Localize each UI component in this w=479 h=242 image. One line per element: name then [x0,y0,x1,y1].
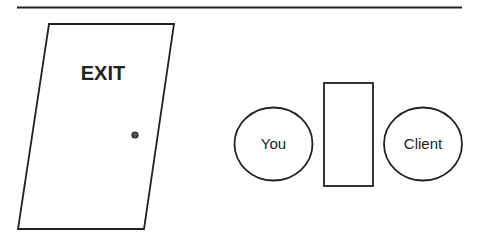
layout-diagram: EXIT You Client [0,0,479,242]
exit-label: EXIT [81,62,125,84]
desk [324,83,373,186]
exit-door [18,24,174,229]
client-label: Client [404,135,443,152]
door-knob-icon [132,132,138,138]
you-label: You [261,135,286,152]
